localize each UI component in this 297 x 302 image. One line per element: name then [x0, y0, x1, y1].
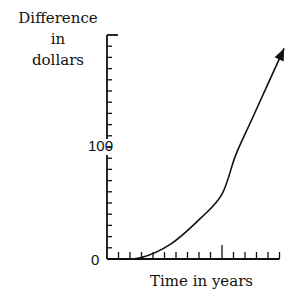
- data-curve: [115, 48, 284, 259]
- chart-plot: [0, 0, 297, 302]
